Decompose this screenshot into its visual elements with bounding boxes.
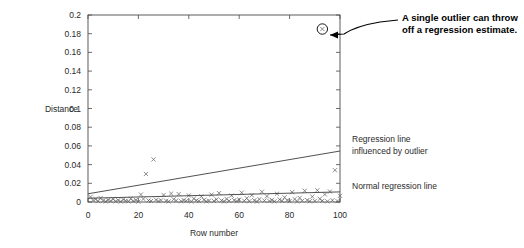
influenced-line-label-line1: Regression line: [352, 134, 411, 144]
x-tick-label: 80: [285, 210, 295, 220]
y-tick-label: 0.08: [64, 122, 81, 132]
y-tick-label: 0.02: [64, 178, 81, 188]
y-tick-label: 0: [76, 197, 81, 207]
normal-line-label: Normal regression line: [352, 181, 437, 191]
y-tick-label: 0.16: [64, 47, 81, 57]
outlier-callout-line1: A single outlier can throw: [402, 12, 518, 23]
x-tick-label: 0: [86, 210, 91, 220]
outlier-regression-scatter-chart: 00.020.040.060.080.10.120.140.160.180.2 …: [0, 0, 524, 248]
y-tick-label: 0.18: [64, 29, 81, 39]
y-tick-label: 0.14: [64, 66, 81, 76]
x-axis-title: Row number: [190, 228, 238, 238]
x-tick-label: 100: [333, 210, 347, 220]
y-tick-label: 0.04: [64, 160, 81, 170]
y-tick-label: 0.2: [69, 10, 81, 20]
x-tick-label: 60: [234, 210, 244, 220]
y-tick-label: 0.12: [64, 85, 81, 95]
influenced-line-label-line2: influenced by outlier: [352, 146, 428, 156]
outlier-callout-line2: off a regression estimate.: [402, 24, 517, 35]
y-axis-title: Distance: [45, 104, 78, 114]
x-tick-label: 20: [134, 210, 144, 220]
y-tick-label: 0.06: [64, 141, 81, 151]
x-tick-label: 40: [184, 210, 194, 220]
